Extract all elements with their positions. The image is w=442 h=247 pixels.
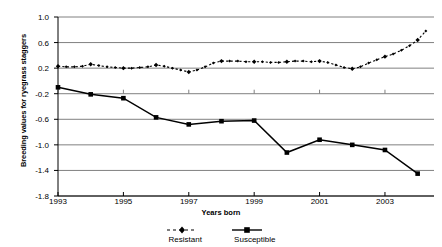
data-point [130, 67, 133, 70]
data-point [252, 60, 256, 64]
data-point [367, 62, 370, 65]
data-point [383, 148, 388, 153]
data-point [187, 70, 191, 74]
data-point [350, 67, 354, 71]
series-line [58, 87, 418, 173]
data-point [163, 65, 166, 68]
data-point [186, 122, 191, 127]
data-point [285, 150, 290, 155]
data-point [212, 62, 215, 65]
data-point [317, 137, 322, 142]
data-point [121, 66, 125, 70]
gridlines [58, 17, 434, 196]
data-point [88, 62, 92, 66]
chart-legend: Resistant Susceptible [0, 225, 442, 244]
data-point [179, 69, 182, 72]
data-point [252, 118, 257, 123]
data-point [171, 67, 174, 70]
chart-container: Breeding values for ryegrass staggers 1.… [0, 0, 442, 247]
data-point [195, 69, 198, 72]
data-point [294, 60, 297, 63]
y-axis-ticks [54, 17, 58, 196]
data-point [415, 38, 419, 42]
data-point [219, 119, 224, 124]
data-point [375, 58, 378, 61]
data-point [302, 60, 305, 63]
data-point [88, 92, 93, 97]
data-point [97, 64, 100, 67]
data-point [285, 60, 289, 64]
data-point [154, 115, 159, 120]
data-point [56, 85, 61, 90]
data-point [121, 96, 126, 101]
data-point [310, 60, 313, 63]
susceptible-line-icon [232, 225, 262, 235]
data-point [154, 63, 158, 67]
data-point [383, 54, 387, 58]
data-point [277, 61, 280, 64]
legend-label-susceptible: Susceptible [234, 235, 275, 244]
series-resistant [56, 30, 428, 75]
data-point [81, 65, 84, 68]
data-point [245, 60, 248, 63]
series-line [58, 31, 426, 72]
data-point [219, 59, 223, 63]
legend-item-susceptible: Susceptible [232, 225, 275, 244]
legend-label-resistant: Resistant [169, 235, 202, 244]
data-point [269, 61, 272, 64]
resistant-line-icon [167, 225, 197, 235]
data-point [326, 61, 329, 64]
data-point [334, 63, 337, 66]
data-point [350, 143, 355, 148]
data-point [261, 60, 264, 63]
legend-item-resistant: Resistant [167, 225, 202, 244]
data-point [236, 60, 239, 63]
series-susceptible [56, 85, 420, 176]
plot-area [0, 0, 442, 247]
data-point [228, 60, 231, 63]
data-point [415, 171, 420, 176]
data-point [424, 30, 427, 33]
data-point [317, 59, 321, 63]
